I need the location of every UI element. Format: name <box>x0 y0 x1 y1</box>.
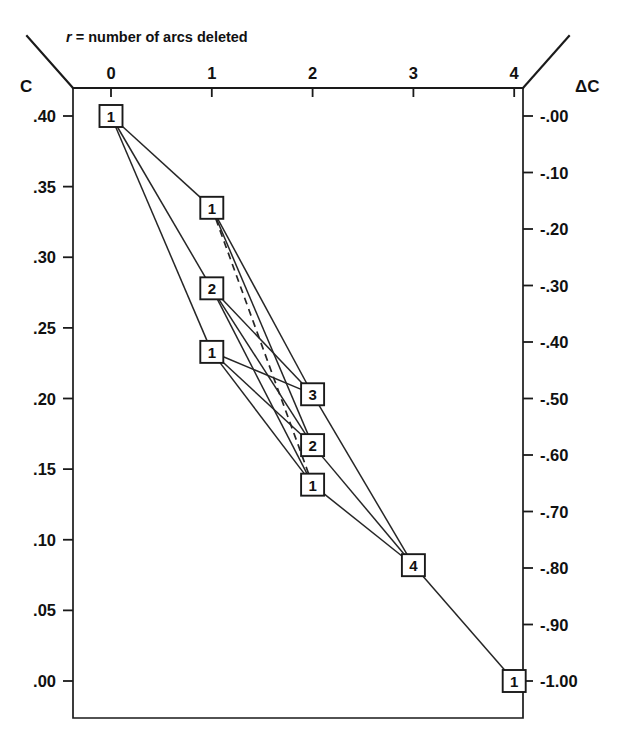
y-right-tick-label: -.30 <box>540 277 568 295</box>
x-tick-label: 4 <box>510 64 520 82</box>
y-left-tick-label: .10 <box>33 531 56 549</box>
y-left-tick-label: .25 <box>33 319 56 337</box>
chart-frame <box>27 36 569 718</box>
y-left-tick-label: .40 <box>33 107 56 125</box>
node-label: 1 <box>208 200 216 217</box>
left-axis-title: C <box>20 77 32 96</box>
y-right-tick-label: -.90 <box>540 616 568 634</box>
network-chart: 112132141 01234.40.35.30.25.20.15.10.05.… <box>0 0 637 745</box>
x-tick-label: 3 <box>409 64 418 82</box>
y-left-tick-label: .00 <box>33 672 56 690</box>
chart-caption: r = number of arcs deleted <box>66 29 248 45</box>
right-corner-diagonal <box>523 36 569 88</box>
node-label: 1 <box>510 673 518 690</box>
y-left-tick-label: .15 <box>33 460 56 478</box>
node-label: 1 <box>308 477 316 494</box>
y-right-tick-label: -.40 <box>540 333 568 351</box>
edge <box>219 299 306 434</box>
y-right-tick-label: -.10 <box>540 164 568 182</box>
graph-node[interactable]: 1 <box>503 670 526 692</box>
graph-node[interactable]: 2 <box>301 434 324 456</box>
figure-canvas: 112132141 01234.40.35.30.25.20.15.10.05.… <box>0 0 637 745</box>
graph-node[interactable]: 1 <box>100 105 123 127</box>
node-label: 1 <box>107 108 115 125</box>
y-left-tick-label: .30 <box>33 248 56 266</box>
node-label: 2 <box>308 437 316 454</box>
edge <box>319 405 407 554</box>
axis-label-layer: 01234.40.35.30.25.20.15.10.05.00-.00-.10… <box>20 29 600 690</box>
edge <box>218 219 307 383</box>
x-tick-label: 2 <box>308 64 317 82</box>
graph-node[interactable]: 2 <box>200 277 223 299</box>
y-left-tick-label: .05 <box>33 601 56 619</box>
plot-frame <box>73 88 523 718</box>
graph-node[interactable]: 4 <box>402 554 425 576</box>
y-left-tick-label: .20 <box>33 390 56 408</box>
edge <box>216 219 307 434</box>
node-label: 2 <box>208 280 216 297</box>
y-right-tick-label: -.80 <box>540 559 568 577</box>
y-right-tick-label: -.50 <box>540 390 568 408</box>
node-layer: 112132141 <box>100 105 526 692</box>
node-label: 4 <box>409 557 418 574</box>
graph-node[interactable]: 1 <box>200 197 223 219</box>
edge <box>116 127 207 341</box>
graph-node[interactable]: 3 <box>301 383 324 405</box>
y-left-tick-label: .35 <box>33 178 56 196</box>
edge <box>117 127 205 277</box>
graph-node[interactable]: 1 <box>301 474 324 496</box>
caption-text: = number of arcs deleted <box>72 29 248 45</box>
right-axis-title: ΔC <box>575 77 600 96</box>
x-tick-label: 0 <box>106 64 115 82</box>
y-right-tick-label: -.00 <box>540 107 568 125</box>
edge <box>220 363 304 474</box>
node-label: 1 <box>208 344 216 361</box>
y-right-tick-label: -.60 <box>540 446 568 464</box>
graph-node[interactable]: 1 <box>200 341 223 363</box>
edge <box>222 299 302 383</box>
x-tick-label: 1 <box>207 64 216 82</box>
edge-dashed <box>216 219 309 474</box>
node-label: 3 <box>308 386 316 403</box>
edge <box>423 576 505 670</box>
y-right-tick-label: -.20 <box>540 220 568 238</box>
y-right-tick-label: -1.00 <box>540 672 578 690</box>
edge <box>123 126 201 197</box>
edge <box>322 456 404 554</box>
y-right-tick-label: -.70 <box>540 503 568 521</box>
